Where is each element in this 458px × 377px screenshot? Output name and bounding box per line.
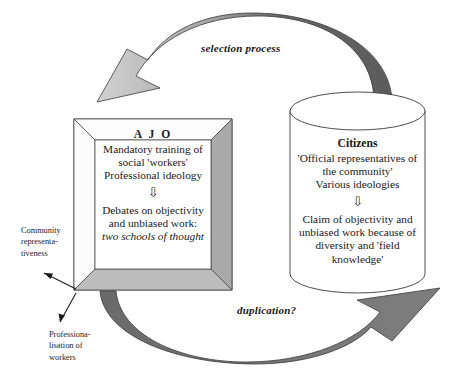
citizens-heading: Citizens <box>288 137 427 151</box>
ajo-line-1: Mandatory training of <box>84 143 222 156</box>
annotation-arrow-community <box>44 273 76 289</box>
selection-process-label: selection process <box>201 42 280 54</box>
citizens-line-1: 'Official representatives of <box>288 152 427 165</box>
arrow-duplication <box>100 288 440 364</box>
citizens-line-5: unbiased work because of <box>288 226 427 239</box>
community-representativeness-note: Community representa- tiveness <box>21 225 91 259</box>
ajo-line-2: social 'workers' <box>84 156 222 169</box>
citizens-line-2: the community' <box>288 165 427 178</box>
citizens-line-7: knowledge' <box>288 253 427 266</box>
ajo-line-3: Professional ideology <box>84 169 222 182</box>
ajo-line-5: and unbiased work: <box>84 217 222 230</box>
professionalisation-note: Professiona- lisation of workers <box>49 329 115 363</box>
arrow-selection-process <box>97 13 392 102</box>
ajo-heading: A J O <box>84 128 222 142</box>
diagram-canvas: A J O Mandatory training of social 'work… <box>0 0 458 377</box>
citizens-line-3: Various ideologies <box>288 178 427 191</box>
citizens-line-6: diversity and 'field <box>288 239 427 252</box>
citizens-line-4: Claim of objectivity and <box>288 213 427 226</box>
annotation-arrow-professionalisation <box>59 293 77 322</box>
down-arrow-icon: ⇩ <box>288 195 427 208</box>
down-arrow-icon: ⇩ <box>84 186 222 199</box>
ajo-emphasis-line: two schools of thought <box>84 230 222 243</box>
citizens-cylinder-text: Citizens 'Official representatives of th… <box>288 137 427 266</box>
duplication-label: duplication? <box>237 304 296 316</box>
ajo-line-4: Debates on objectivity <box>84 204 222 217</box>
ajo-box-text: A J O Mandatory training of social 'work… <box>84 128 222 244</box>
